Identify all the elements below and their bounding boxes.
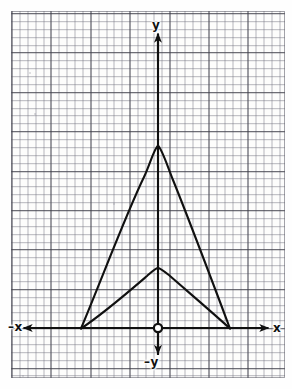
- origin-marker: [154, 324, 162, 332]
- axis-label-x: x: [273, 321, 281, 335]
- plot-overlay: [0, 0, 292, 389]
- axis-label-neg-y: –y: [144, 355, 159, 369]
- curve-inner: [81, 268, 230, 329]
- axis-label-neg-x: –x: [8, 320, 23, 334]
- curve-outer: [81, 146, 230, 329]
- figure-canvas: y –y x –x: [0, 0, 292, 389]
- axis-label-y: y: [152, 18, 160, 32]
